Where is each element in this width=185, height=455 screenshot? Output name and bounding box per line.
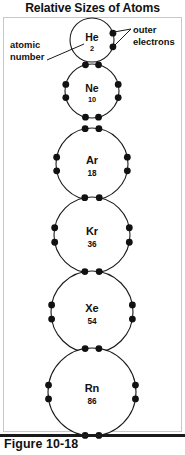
electron-dot	[95, 114, 102, 121]
electron-dot	[124, 154, 131, 161]
atom-kr: Kr36	[51, 194, 132, 275]
electron-dot	[48, 301, 55, 308]
electron-dot	[115, 94, 122, 101]
electron-dot	[95, 345, 102, 352]
atomic-number-label-line2: number	[10, 51, 44, 63]
atom-symbol: Kr	[86, 225, 99, 237]
electron-dot	[82, 114, 89, 121]
electron-dot	[81, 268, 88, 275]
electron-dot	[96, 194, 103, 201]
atom-xe: Xe54	[48, 268, 136, 356]
outer-electrons-label: outer electrons	[133, 24, 175, 47]
electron-dot	[82, 125, 89, 132]
outer-electrons-label-line1: outer	[133, 24, 175, 36]
atom-atomic-number: 36	[87, 240, 97, 249]
figure-caption: Figure 10-18	[4, 437, 78, 451]
atom-atomic-number: 54	[87, 317, 97, 326]
atom-ar: Ar18	[53, 125, 130, 202]
electron-dot	[95, 125, 102, 132]
atom-atomic-number: 86	[87, 397, 97, 406]
atom-he: He2	[70, 18, 116, 62]
electron-dot	[62, 94, 69, 101]
atom-rn: Rn86	[45, 345, 139, 439]
atom-ne: Ne10	[62, 61, 121, 120]
electron-dot	[95, 61, 102, 68]
electron-dot	[124, 167, 131, 174]
electron-dot	[48, 316, 55, 323]
atoms-group: He2Ne10Ar18Kr36Xe54Rn86	[45, 18, 139, 439]
electron-dot	[45, 382, 52, 389]
electron-dot	[45, 395, 52, 402]
electron-dot	[115, 81, 122, 88]
figure-container: Relative Sizes of Atoms He2Ne10Ar18Kr36X…	[0, 0, 185, 455]
electron-dot	[96, 268, 103, 275]
electron-dot	[126, 239, 133, 246]
electron-dot	[82, 345, 89, 352]
electron-dot	[129, 301, 136, 308]
electron-dot	[53, 167, 60, 174]
atomic-number-label: atomic number	[10, 39, 44, 62]
electron-dot	[53, 154, 60, 161]
atom-symbol: Ne	[85, 82, 99, 94]
atom-atomic-number: 18	[87, 169, 97, 178]
electron-dot	[132, 395, 139, 402]
electron-dot	[126, 224, 133, 231]
electron-dot	[129, 316, 136, 323]
atom-symbol: Rn	[85, 382, 100, 394]
electron-dot	[51, 239, 58, 246]
electron-dot	[51, 224, 58, 231]
electron-dot	[110, 30, 117, 37]
atom-atomic-number: 2	[90, 44, 94, 53]
electron-dot	[132, 382, 139, 389]
atom-symbol: Ar	[86, 154, 99, 166]
atomic-number-label-line1: atomic	[10, 39, 44, 51]
electron-dot	[82, 61, 89, 68]
electron-dot	[62, 81, 69, 88]
atoms-diagram: He2Ne10Ar18Kr36Xe54Rn86	[0, 0, 185, 455]
atom-symbol: Xe	[85, 302, 98, 314]
atom-atomic-number: 10	[88, 95, 96, 104]
atom-symbol: He	[85, 31, 99, 43]
electron-dot	[81, 194, 88, 201]
outer-electrons-label-line2: electrons	[133, 36, 175, 48]
